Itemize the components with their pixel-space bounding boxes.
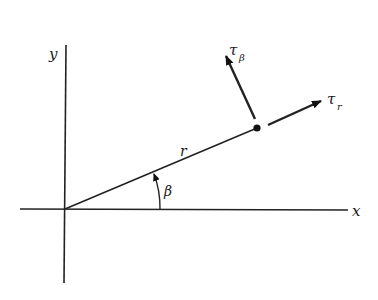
y-axis-label: y	[48, 45, 58, 63]
tau-beta-symbol: τ	[229, 41, 238, 59]
tau-r-arrow-icon	[268, 101, 321, 125]
x-axis-label: x	[352, 202, 361, 220]
polar-coordinates-diagram: x y r β τ β τ r	[0, 0, 378, 300]
y-axis	[64, 45, 66, 283]
angle-label: β	[163, 183, 172, 199]
radius-line	[65, 128, 257, 209]
tau-r-subscript: r	[337, 101, 343, 112]
radius-label: r	[180, 143, 188, 159]
angle-arc-icon	[154, 174, 160, 209]
x-axis	[20, 209, 348, 210]
tau-r-symbol: τ	[327, 90, 336, 108]
tau-beta-arrow-icon	[226, 56, 255, 119]
tau-beta-subscript: β	[238, 52, 245, 63]
particle-point	[253, 124, 260, 131]
